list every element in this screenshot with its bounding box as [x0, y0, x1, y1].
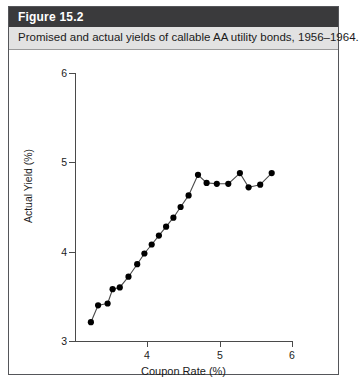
data-point: [257, 182, 263, 188]
data-point: [237, 170, 243, 176]
data-point: [141, 250, 147, 256]
data-point: [204, 180, 210, 186]
series-point-group: [88, 170, 275, 325]
data-point: [178, 204, 184, 210]
data-series-plot: [9, 50, 338, 374]
data-point: [225, 181, 231, 187]
data-point: [156, 233, 162, 239]
figure-header-bar: Figure 15.2: [9, 7, 338, 27]
figure-caption-row: Promised and actual yields of callable A…: [9, 27, 338, 50]
data-point: [95, 302, 101, 308]
data-point: [88, 319, 94, 325]
data-point: [246, 184, 252, 190]
data-point: [134, 261, 140, 267]
figure-container: Figure 15.2 Promised and actual yields o…: [8, 6, 339, 375]
data-point: [163, 224, 169, 230]
figure-number-label: Figure 15.2: [18, 10, 84, 24]
data-point: [125, 274, 131, 280]
series-line: [91, 173, 272, 322]
data-point: [117, 284, 123, 290]
data-point: [110, 286, 116, 292]
data-point: [195, 172, 201, 178]
data-point: [186, 192, 192, 198]
data-point: [170, 215, 176, 221]
data-point: [105, 300, 111, 306]
data-point: [214, 181, 220, 187]
data-point: [269, 170, 275, 176]
figure-caption-text: Promised and actual yields of callable A…: [18, 31, 359, 43]
data-point: [149, 241, 155, 247]
chart-plot-area: 3456 456 Actual Yield (%) Coupon Rate (%…: [9, 50, 338, 374]
